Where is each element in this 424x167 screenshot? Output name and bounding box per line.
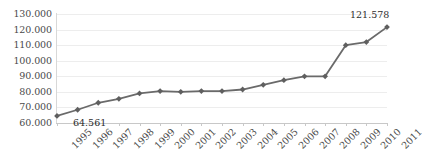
series-line bbox=[57, 27, 387, 116]
data-point-marker bbox=[281, 77, 287, 83]
data-point-marker bbox=[240, 87, 246, 93]
data-point-marker bbox=[157, 88, 163, 94]
data-point-marker bbox=[75, 107, 81, 113]
last-point-label: 121.578 bbox=[350, 9, 389, 20]
data-point-marker bbox=[137, 91, 143, 97]
data-point-marker bbox=[116, 96, 122, 102]
data-point-marker bbox=[302, 73, 308, 79]
data-point-marker bbox=[260, 82, 266, 88]
data-point-marker bbox=[198, 88, 204, 94]
data-point-marker bbox=[54, 113, 60, 119]
data-point-marker bbox=[178, 89, 184, 95]
first-point-label: 64.561 bbox=[73, 117, 106, 128]
data-point-marker bbox=[219, 88, 225, 94]
x-axis-tick-label: 2011 bbox=[399, 126, 424, 151]
data-point-marker bbox=[95, 100, 101, 106]
